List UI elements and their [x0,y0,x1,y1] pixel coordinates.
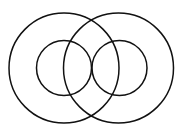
circles-diagram [0,0,184,133]
circle-group [9,13,174,123]
